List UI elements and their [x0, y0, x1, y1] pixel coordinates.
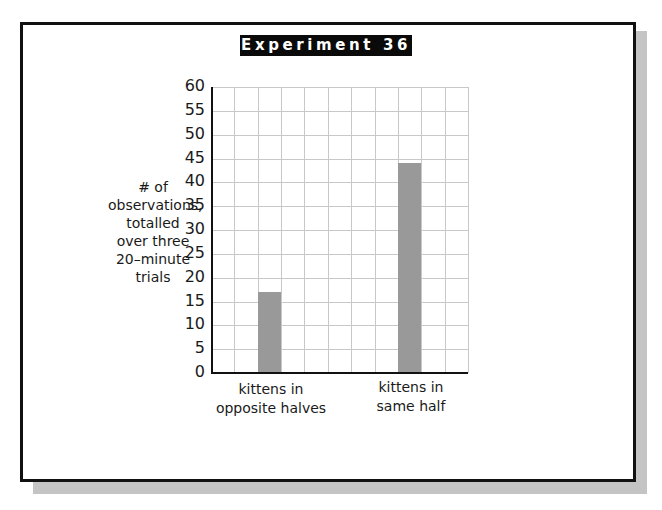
gridline-horizontal [211, 325, 468, 326]
bar-opposite-halves [258, 292, 281, 373]
y-tick-label: 5 [175, 340, 205, 356]
x-label-line: kittens in [211, 380, 331, 399]
gridline-vertical [375, 87, 376, 373]
y-axis-line [211, 87, 213, 373]
y-tick-label: 50 [175, 126, 205, 142]
y-tick-label: 60 [175, 78, 205, 94]
y-tick-label: 30 [175, 221, 205, 237]
gridline-vertical [421, 87, 422, 373]
gridline-vertical [351, 87, 352, 373]
y-tick-label: 35 [175, 197, 205, 213]
y-tick-label: 15 [175, 293, 205, 309]
bar-same-half [398, 163, 421, 373]
gridline-vertical [468, 87, 469, 373]
gridline-horizontal [211, 182, 468, 183]
gridline-vertical [304, 87, 305, 373]
gridline-horizontal [211, 254, 468, 255]
gridline-vertical [445, 87, 446, 373]
gridline-horizontal [211, 206, 468, 207]
y-tick-label: 20 [175, 269, 205, 285]
y-tick-label: 45 [175, 150, 205, 166]
gridline-horizontal [211, 302, 468, 303]
gridline-horizontal [211, 278, 468, 279]
x-category-label-same-half: kittens in same half [351, 378, 471, 416]
plot-area [211, 87, 468, 373]
y-tick-label: 10 [175, 316, 205, 332]
x-axis-line [211, 372, 468, 374]
gridline-horizontal [211, 111, 468, 112]
y-tick-label: 55 [175, 102, 205, 118]
gridline-vertical [328, 87, 329, 373]
y-tick-label: 40 [175, 173, 205, 189]
y-tick-label: 25 [175, 245, 205, 261]
gridline-horizontal [211, 159, 468, 160]
gridline-horizontal [211, 349, 468, 350]
y-tick-label: 0 [175, 364, 205, 380]
gridline-horizontal [211, 135, 468, 136]
x-label-line: kittens in [351, 378, 471, 397]
gridline-vertical [234, 87, 235, 373]
gridline-horizontal [211, 230, 468, 231]
x-label-line: opposite halves [211, 399, 331, 418]
chart-title: Experiment 36 [240, 35, 412, 56]
gridline-horizontal [211, 87, 468, 88]
gridline-vertical [281, 87, 282, 373]
x-category-label-opposite-halves: kittens in opposite halves [211, 380, 331, 418]
x-label-line: same half [351, 397, 471, 416]
